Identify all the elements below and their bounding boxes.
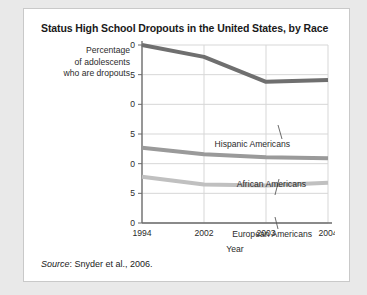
series-annotation-label: African Americans (237, 179, 306, 189)
y-axis-tick-labels: 051015202530 (130, 40, 142, 228)
series-annotation-label: Hispanic Americans (215, 139, 290, 149)
x-axis-title-label: Year (226, 244, 244, 254)
page-title: Status High School Dropouts in the Unite… (41, 22, 341, 34)
series-annotation-label: European Americans (232, 229, 312, 239)
y-axis-tick-label: 30 (130, 40, 135, 50)
y-axis-tick-label: 25 (130, 70, 135, 80)
figure-card: Status High School Dropouts in the Unite… (23, 8, 350, 282)
y-axis-tick-label: 15 (130, 129, 135, 139)
chart-series-lines (142, 45, 328, 186)
x-axis-tick-label: 2002 (194, 228, 213, 238)
source-note: Source: Snyder et al., 2006. (41, 259, 153, 269)
y-axis-caption-line-1: Percentage (38, 45, 130, 57)
annotation-leader-line (278, 125, 282, 139)
series-line (142, 45, 328, 82)
y-axis-caption-line-2: of adolescents (38, 57, 130, 69)
source-text: : Snyder et al., 2006. (70, 259, 153, 269)
source-label: Source (41, 259, 70, 269)
y-axis-tick-label: 10 (130, 159, 135, 169)
series-line (142, 148, 328, 159)
x-axis-tick-label: 1994 (132, 228, 151, 238)
chart-series-annotations: Hispanic AmericansAfrican AmericansEurop… (215, 125, 312, 239)
x-axis-title: Year (226, 244, 244, 254)
chart-plot-area: 051015202530 1994200220032004 Hispanic A… (130, 39, 335, 254)
chart-gridlines (142, 45, 328, 223)
x-axis-tick-label: 2004 (318, 228, 335, 238)
y-axis-tick-label: 5 (130, 188, 135, 198)
y-axis-caption: Percentage of adolescents who are dropou… (38, 45, 130, 80)
line-chart-svg: 051015202530 1994200220032004 Hispanic A… (130, 39, 335, 254)
y-axis-tick-label: 20 (130, 99, 135, 109)
y-axis-caption-line-3: who are dropouts (38, 68, 130, 80)
y-axis-tick-label: 0 (130, 218, 135, 228)
